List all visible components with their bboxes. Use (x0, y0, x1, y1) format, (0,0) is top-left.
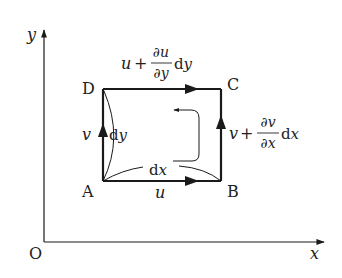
top-expr-plus: + (134, 54, 147, 73)
right-expr-tail: dx (281, 125, 300, 143)
arrowhead-top-edge (185, 84, 199, 94)
deformed-bottom-curve (103, 167, 143, 181)
arrowhead-left-edge (98, 123, 108, 137)
bottom-length-label: dx (149, 161, 168, 179)
corner-label-a: A (81, 182, 94, 201)
right-expr-denominator: ∂x (260, 135, 275, 151)
bottom-velocity-label: u (155, 183, 165, 202)
right-expr-base: v (229, 124, 238, 143)
right-expr-plus: + (240, 124, 253, 143)
corner-label-b: B (227, 182, 239, 201)
top-velocity-expression: u + ∂u ∂y dy (121, 44, 193, 81)
fluid-element-diagram: y x O A B C D u dx v dy u + ∂u ∂y dy v +… (0, 0, 342, 278)
corner-label-d: D (82, 79, 95, 98)
corner-label-c: C (227, 75, 239, 94)
x-axis-label: x (310, 244, 319, 263)
rotation-arrow (173, 110, 199, 161)
right-expr-numerator: ∂v (260, 114, 275, 130)
top-expr-denominator: ∂y (153, 65, 169, 81)
top-expr-numerator: ∂u (153, 44, 169, 60)
left-length-label: dy (109, 126, 128, 144)
y-axis-label: y (26, 25, 37, 44)
right-velocity-expression: v + ∂v ∂x dx (229, 114, 300, 151)
origin-label: O (29, 244, 42, 263)
arrowhead-bottom-edge (185, 176, 199, 186)
top-expr-tail: dy (174, 55, 193, 73)
arrowhead-right-edge (216, 115, 226, 129)
top-expr-base: u (121, 54, 131, 73)
left-velocity-label: v (82, 125, 91, 144)
